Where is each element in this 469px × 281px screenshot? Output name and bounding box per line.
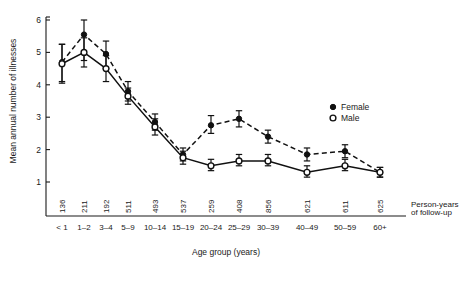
y-tick-label: 2 <box>36 145 41 155</box>
data-point-marker <box>81 50 87 56</box>
x-tick-label: 25–29 <box>228 223 251 232</box>
x-tick-label: < 1 <box>56 223 68 232</box>
y-tick-label: 5 <box>36 47 41 57</box>
person-years-labels: 136211192511493537259408856621611625 <box>58 199 385 213</box>
person-years-value: 408 <box>235 199 244 213</box>
y-axis: 123456 <box>36 15 50 216</box>
x-axis-category-labels: < 11–23–45–910–1415–1920–2425–2930–3940–… <box>56 223 387 232</box>
data-point-marker <box>180 155 186 161</box>
data-point-marker <box>304 169 310 175</box>
x-tick-label: 15–19 <box>172 223 195 232</box>
person-years-value: 856 <box>264 199 273 213</box>
illness-by-age-line-chart: 123456 Mean annual number of illnesses 1… <box>0 0 469 281</box>
y-axis-title-text: Mean annual number of illnesses <box>8 39 18 164</box>
series-line <box>62 52 380 172</box>
person-years-value: 192 <box>102 199 111 213</box>
data-series-layer <box>59 20 383 177</box>
y-tick-label: 3 <box>36 112 41 122</box>
x-tick-label: 1–2 <box>77 223 91 232</box>
data-point-marker <box>152 124 158 130</box>
data-point-marker <box>265 158 271 164</box>
x-tick-label: 3–4 <box>99 223 113 232</box>
person-years-value: 493 <box>151 199 160 213</box>
series-line <box>62 35 380 173</box>
data-point-marker <box>81 32 86 37</box>
data-point-marker <box>342 149 347 154</box>
legend-label-female: Female <box>341 102 370 112</box>
y-tick-label: 1 <box>36 177 41 187</box>
series-female <box>59 20 383 177</box>
data-point-marker <box>103 66 109 72</box>
x-tick-label: 10–14 <box>144 223 167 232</box>
data-point-marker <box>342 163 348 169</box>
person-years-value: 625 <box>376 199 385 213</box>
person-years-value: 537 <box>179 199 188 213</box>
person-years-value: 511 <box>124 200 133 213</box>
data-point-marker <box>208 123 213 128</box>
data-point-marker <box>59 61 65 67</box>
x-tick-label: 30–39 <box>257 223 280 232</box>
x-tick-label: 20–24 <box>200 223 223 232</box>
legend-marker-male <box>330 115 336 121</box>
x-axis-title-text: Age group (years) <box>192 247 260 257</box>
y-axis-title: Mean annual number of illnesses <box>8 39 18 164</box>
person-years-value: 621 <box>303 199 312 213</box>
person-years-axis-title: Person-yearsof follow-up <box>411 200 459 217</box>
data-point-marker <box>377 169 383 175</box>
data-point-marker <box>208 163 214 169</box>
chart-legend: FemaleMale <box>330 102 370 123</box>
data-point-marker <box>304 152 309 157</box>
x-tick-label: 50–59 <box>334 223 357 232</box>
person-years-value: 136 <box>58 199 67 213</box>
chart-figure: 123456 Mean annual number of illnesses 1… <box>0 0 469 281</box>
data-point-marker <box>125 93 131 99</box>
data-point-marker <box>236 116 241 121</box>
person-years-axis-line2: of follow-up <box>411 208 452 217</box>
x-tick-label: 60+ <box>373 223 387 232</box>
x-tick-label: 5–9 <box>121 223 135 232</box>
y-tick-label: 6 <box>36 15 41 25</box>
person-years-value: 211 <box>80 200 89 213</box>
legend-marker-female <box>330 104 335 109</box>
x-tick-label: 40–49 <box>296 223 319 232</box>
x-axis-title: Age group (years) <box>192 247 260 257</box>
y-tick-label: 4 <box>36 80 41 90</box>
legend-label-male: Male <box>341 113 360 123</box>
data-point-marker <box>265 134 270 139</box>
person-years-value: 611 <box>341 200 350 213</box>
data-point-marker <box>236 158 242 164</box>
person-years-value: 259 <box>207 199 216 213</box>
